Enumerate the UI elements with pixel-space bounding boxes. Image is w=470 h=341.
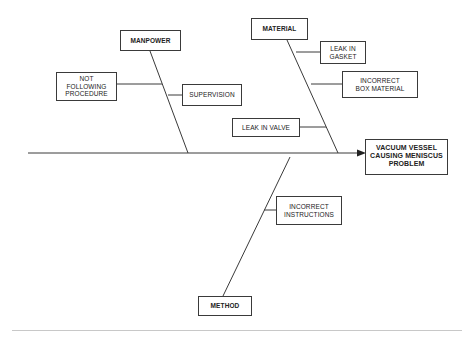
cause-incorrect-instructions: INCORRECT INSTRUCTIONS	[276, 196, 342, 225]
footer-divider	[12, 330, 462, 331]
method-bone	[223, 157, 290, 296]
cause-leak-in-gasket: LEAK IN GASKET	[320, 41, 366, 64]
cause-supervision: SUPERVISION	[182, 84, 242, 106]
cause-leak-in-valve: LEAK IN VALVE	[232, 118, 300, 137]
category-method: METHOD	[198, 296, 252, 316]
cause-incorrect-box-material: INCORRECT BOX MATERIAL	[342, 71, 418, 98]
category-material: MATERIAL	[251, 18, 308, 40]
category-manpower: MANPOWER	[120, 30, 181, 51]
effect-box: VACUUM VESSEL CAUSING MENISCUS PROBLEM	[365, 139, 448, 175]
cause-not-following-procedure: NOT FOLLOWING PROCEDURE	[56, 72, 117, 101]
